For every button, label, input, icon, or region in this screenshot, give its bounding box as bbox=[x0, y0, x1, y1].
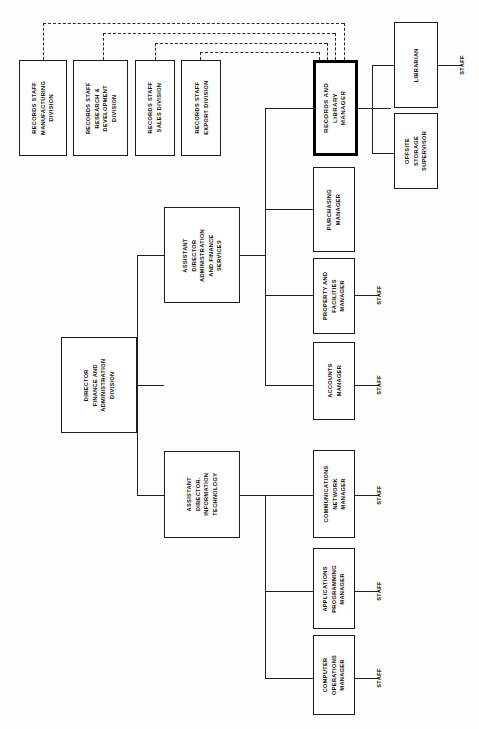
staff-label-librarian: STAFF bbox=[459, 55, 465, 75]
connector-admin-branch-spine bbox=[265, 108, 266, 386]
connector-library-sub-spine bbox=[372, 65, 373, 154]
org-chart-canvas: RECORDS STAFFMANUFACTURINGDIVISION RECOR… bbox=[0, 0, 479, 729]
node-records-manufacturing-label: RECORDS STAFFMANUFACTURINGDIVISION bbox=[30, 81, 56, 135]
staff-label-accounts: STAFF bbox=[376, 375, 382, 395]
dashed-link-rd-run bbox=[103, 33, 335, 34]
staff-label-property: STAFF bbox=[376, 285, 382, 305]
node-records-export[interactable]: RECORDS STAFFEXPORT DIVISION bbox=[181, 60, 221, 156]
node-property-manager[interactable]: PROPERTY ANDFACILITIESMANAGER bbox=[313, 258, 355, 334]
connector-director-out bbox=[137, 385, 164, 386]
node-director[interactable]: DIRECTORFINANCE ANDADMINISTRATIONDIVISIO… bbox=[61, 337, 137, 433]
dashed-link-export-run bbox=[200, 52, 319, 53]
node-comms-manager[interactable]: COMMUNICATIONSNETWORKMANAGER bbox=[313, 450, 355, 538]
dashed-link-export-drop bbox=[319, 52, 320, 60]
node-librarian[interactable]: LIBRARIAN bbox=[394, 22, 438, 108]
connector-admin-to-library-manager bbox=[265, 108, 315, 109]
node-computer-ops-manager[interactable]: COMPUTEROPERATIONSMANAGER bbox=[313, 635, 355, 715]
dashed-link-manufacturing-drop bbox=[344, 23, 345, 60]
connector-asst-it-out bbox=[240, 495, 266, 496]
node-asst-director-it-label: ASSISTANTDIRECTOR.INFORMATIONTECHNOLOGY bbox=[185, 473, 219, 516]
node-accounts-manager[interactable]: ACCOUNTSMANAGER bbox=[313, 342, 355, 420]
dashed-link-export-riser bbox=[200, 52, 201, 60]
node-offsite-supervisor[interactable]: OFFSITESTORAGESUPERVISOR bbox=[394, 113, 438, 189]
node-offsite-supervisor-label: OFFSITESTORAGESUPERVISOR bbox=[403, 131, 429, 171]
staff-label-comms: STAFF bbox=[376, 485, 382, 505]
staff-label-computer-ops: STAFF bbox=[376, 668, 382, 688]
node-director-label: DIRECTORFINANCE ANDADMINISTRATIONDIVISIO… bbox=[82, 359, 116, 412]
connector-it-to-computer-ops bbox=[265, 678, 313, 679]
node-purchasing-manager-label: PURCHASINGMANAGER bbox=[325, 189, 342, 230]
node-asst-director-admin[interactable]: ASSISTANTDIRECTORADMINISTRATIONAND FINAN… bbox=[164, 207, 240, 303]
node-records-export-label: RECORDS STAFFEXPORT DIVISION bbox=[192, 81, 209, 135]
connector-admin-to-purchasing bbox=[265, 209, 313, 210]
node-records-sales[interactable]: RECORDS STAFFSALES DIVISION bbox=[135, 60, 175, 156]
dashed-link-sales-run bbox=[155, 43, 327, 44]
connector-it-to-apps bbox=[265, 591, 313, 592]
node-librarian-label: LIBRARIAN bbox=[412, 48, 421, 82]
connector-to-librarian bbox=[372, 65, 394, 66]
dashed-link-sales-drop bbox=[327, 43, 328, 60]
node-records-library-manager-label: RECORDS ANDLIBRARYMANAGER bbox=[323, 83, 349, 133]
dashed-link-manufacturing-run bbox=[43, 23, 344, 24]
node-asst-director-it[interactable]: ASSISTANTDIRECTOR.INFORMATIONTECHNOLOGY bbox=[164, 451, 240, 538]
node-records-sales-label: RECORDS STAFFSALES DIVISION bbox=[146, 82, 163, 134]
connector-director-spine bbox=[137, 255, 138, 495]
node-records-manufacturing[interactable]: RECORDS STAFFMANUFACTURINGDIVISION bbox=[19, 60, 67, 156]
connector-admin-to-accounts bbox=[265, 385, 313, 386]
node-property-manager-label: PROPERTY ANDFACILITIESMANAGER bbox=[321, 272, 347, 320]
connector-admin-to-property bbox=[265, 295, 313, 296]
connector-library-manager-out bbox=[358, 108, 391, 109]
node-accounts-manager-label: ACCOUNTSMANAGER bbox=[325, 364, 342, 399]
connector-to-offsite-supervisor bbox=[372, 153, 394, 154]
node-records-rd-label: RECORDS STAFFRESEARCH &DEVELOPMENTDIVISI… bbox=[83, 82, 117, 134]
connector-asst-admin-out bbox=[240, 255, 266, 256]
connector-spine-to-asst-admin bbox=[137, 255, 164, 256]
node-computer-ops-manager-label: COMPUTEROPERATIONSMANAGER bbox=[321, 655, 347, 695]
dashed-link-rd-drop bbox=[335, 33, 336, 60]
node-records-library-manager[interactable]: RECORDS ANDLIBRARYMANAGER bbox=[313, 60, 358, 156]
connector-spine-to-asst-it bbox=[137, 495, 164, 496]
connector-it-branch-spine bbox=[265, 495, 266, 678]
dashed-link-rd-riser bbox=[103, 33, 104, 60]
node-records-rd[interactable]: RECORDS STAFFRESEARCH &DEVELOPMENTDIVISI… bbox=[73, 60, 128, 156]
dashed-link-sales-riser bbox=[155, 43, 156, 60]
connector-it-to-comms bbox=[265, 495, 313, 496]
staff-label-apps: STAFF bbox=[376, 581, 382, 601]
node-comms-manager-label: COMMUNICATIONSNETWORKMANAGER bbox=[321, 466, 347, 523]
dashed-link-manufacturing-riser bbox=[43, 23, 44, 60]
node-apps-manager[interactable]: APPLICATIONSPROGRAMMINGMANAGER bbox=[313, 548, 355, 629]
node-apps-manager-label: APPLICATIONSPROGRAMMINGMANAGER bbox=[321, 565, 347, 613]
node-purchasing-manager[interactable]: PURCHASINGMANAGER bbox=[313, 167, 355, 252]
node-asst-director-admin-label: ASSISTANTDIRECTORADMINISTRATIONAND FINAN… bbox=[181, 229, 224, 282]
